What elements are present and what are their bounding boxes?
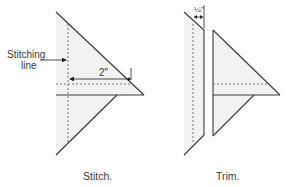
stitch-figure (40, 12, 144, 155)
trim-figure (184, 5, 280, 155)
diagram-canvas (0, 0, 294, 187)
stitching-line-label: Stitching line (7, 49, 45, 71)
dimension-quarter-label: ¼" (194, 4, 204, 15)
stitch-caption: Stitch. (83, 170, 112, 182)
triangle-unit (213, 30, 280, 136)
label-line2: line (7, 60, 45, 71)
trim-caption: Trim. (216, 170, 240, 182)
trimmed-strip (184, 12, 204, 155)
dimension-2in-label: 2" (99, 67, 108, 78)
label-line1: Stitching (7, 49, 45, 60)
